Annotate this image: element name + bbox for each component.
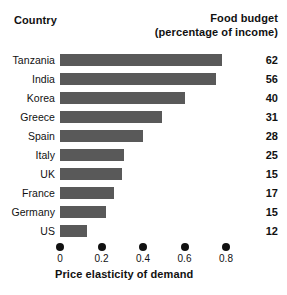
bar-us bbox=[60, 225, 87, 237]
bar-greece bbox=[60, 111, 162, 123]
row-label-us: US bbox=[0, 225, 55, 237]
value-france: 17 bbox=[244, 187, 278, 199]
x-axis-tick-label: 0.4 bbox=[127, 253, 159, 264]
column-header-food-budget: Food budget (percentage of income) bbox=[155, 12, 278, 39]
bar-track bbox=[60, 187, 267, 199]
value-greece: 31 bbox=[244, 111, 278, 123]
bar-track bbox=[60, 73, 267, 85]
tick-dot-icon bbox=[56, 243, 64, 251]
tick-dot-icon bbox=[181, 243, 189, 251]
chart-row: Italy25 bbox=[0, 147, 287, 166]
chart-row: Germany15 bbox=[0, 204, 287, 223]
value-tanzania: 62 bbox=[244, 54, 278, 66]
tick-dot-icon bbox=[222, 243, 230, 251]
row-label-uk: UK bbox=[0, 168, 55, 180]
x-axis-tick-label: 0.2 bbox=[86, 253, 118, 264]
row-label-india: India bbox=[0, 73, 55, 85]
x-axis-tick-label: 0 bbox=[44, 253, 76, 264]
chart-row: Tanzania62 bbox=[0, 52, 287, 71]
value-spain: 28 bbox=[244, 130, 278, 142]
chart-row: Spain28 bbox=[0, 128, 287, 147]
x-axis-title: Price elasticity of demand bbox=[55, 268, 193, 280]
bar-track bbox=[60, 92, 267, 104]
chart-rows: Tanzania62India56Korea40Greece31Spain28I… bbox=[0, 52, 287, 242]
row-label-korea: Korea bbox=[0, 92, 55, 104]
bar-track bbox=[60, 168, 267, 180]
value-korea: 40 bbox=[244, 92, 278, 104]
chart-row: France17 bbox=[0, 185, 287, 204]
chart-row: India56 bbox=[0, 71, 287, 90]
bar-tanzania bbox=[60, 54, 222, 66]
column-header-food-budget-line2: (percentage of income) bbox=[155, 26, 278, 40]
bar-track bbox=[60, 149, 267, 161]
bar-spain bbox=[60, 130, 143, 142]
chart-row: Korea40 bbox=[0, 90, 287, 109]
food-budget-elasticity-chart: Country Food budget (percentage of incom… bbox=[0, 0, 287, 295]
value-india: 56 bbox=[244, 73, 278, 85]
bar-italy bbox=[60, 149, 124, 161]
x-axis-tick-label: 0.6 bbox=[169, 253, 201, 264]
bar-germany bbox=[60, 206, 106, 218]
bar-track bbox=[60, 225, 267, 237]
row-label-greece: Greece bbox=[0, 111, 55, 123]
value-us: 12 bbox=[244, 225, 278, 237]
chart-row: US12 bbox=[0, 223, 287, 242]
bar-uk bbox=[60, 168, 122, 180]
bar-track bbox=[60, 111, 267, 123]
row-label-spain: Spain bbox=[0, 130, 55, 142]
x-axis-tick-label: 0.8 bbox=[210, 253, 242, 264]
bar-track bbox=[60, 206, 267, 218]
value-italy: 25 bbox=[244, 149, 278, 161]
bar-india bbox=[60, 73, 216, 85]
value-uk: 15 bbox=[244, 168, 278, 180]
row-label-france: France bbox=[0, 187, 55, 199]
bar-track bbox=[60, 54, 267, 66]
tick-dot-icon bbox=[98, 243, 106, 251]
column-header-country: Country bbox=[14, 14, 57, 26]
value-germany: 15 bbox=[244, 206, 278, 218]
row-label-italy: Italy bbox=[0, 149, 55, 161]
bar-korea bbox=[60, 92, 185, 104]
chart-row: Greece31 bbox=[0, 109, 287, 128]
row-label-tanzania: Tanzania bbox=[0, 54, 55, 66]
chart-row: UK15 bbox=[0, 166, 287, 185]
column-header-food-budget-line1: Food budget bbox=[155, 12, 278, 26]
bar-track bbox=[60, 130, 267, 142]
row-label-germany: Germany bbox=[0, 206, 55, 218]
tick-dot-icon bbox=[139, 243, 147, 251]
bar-france bbox=[60, 187, 114, 199]
